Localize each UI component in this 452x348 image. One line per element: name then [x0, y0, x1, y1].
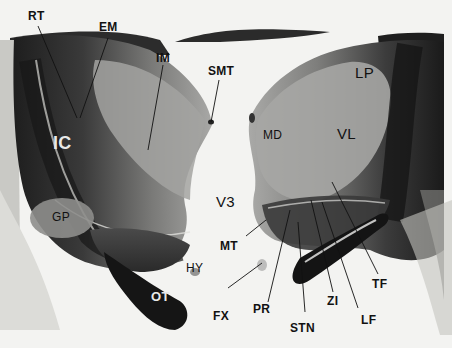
label-v3: V3: [216, 194, 235, 209]
label-lf: LF: [361, 314, 376, 326]
label-gp: GP: [52, 211, 70, 223]
brain-section-figure: RT EM IM SMT LP IC MD VL V3 GP MT HY OT …: [0, 0, 452, 348]
label-vl: VL: [337, 126, 356, 141]
label-lp: LP: [355, 65, 374, 80]
label-md: MD: [263, 129, 282, 141]
label-em: EM: [99, 21, 118, 33]
label-hy: HY: [186, 262, 203, 274]
label-tf: TF: [372, 278, 387, 290]
label-ic: IC: [53, 134, 72, 152]
label-rt: RT: [28, 10, 45, 22]
label-smt: SMT: [208, 65, 234, 77]
label-ot: OT: [151, 290, 170, 303]
label-zi: ZI: [327, 295, 338, 307]
label-pr: PR: [253, 303, 270, 315]
label-mt: MT: [220, 240, 238, 252]
tissue-image: [0, 0, 452, 348]
label-im: IM: [156, 52, 170, 64]
label-stn: STN: [290, 322, 315, 334]
label-fx: FX: [213, 310, 229, 322]
